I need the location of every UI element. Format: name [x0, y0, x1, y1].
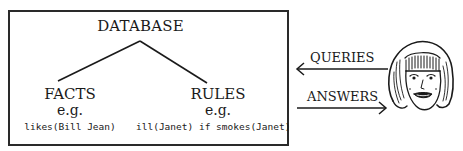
- queries-label: QUERIES: [310, 50, 374, 65]
- rules-example: ill(Janet) if smokes(Janet): [136, 121, 286, 132]
- database-title: DATABASE: [0, 17, 281, 35]
- facts-label: FACTS: [20, 85, 120, 103]
- facts-eg-label: e.g.: [20, 102, 120, 118]
- rules-eg-label: e.g.: [168, 102, 268, 118]
- facts-example: likes(Bill Jean): [10, 121, 130, 132]
- answers-label: ANSWERS: [307, 89, 378, 104]
- woman-face-icon: [389, 42, 453, 110]
- rules-label: RULES: [168, 85, 268, 103]
